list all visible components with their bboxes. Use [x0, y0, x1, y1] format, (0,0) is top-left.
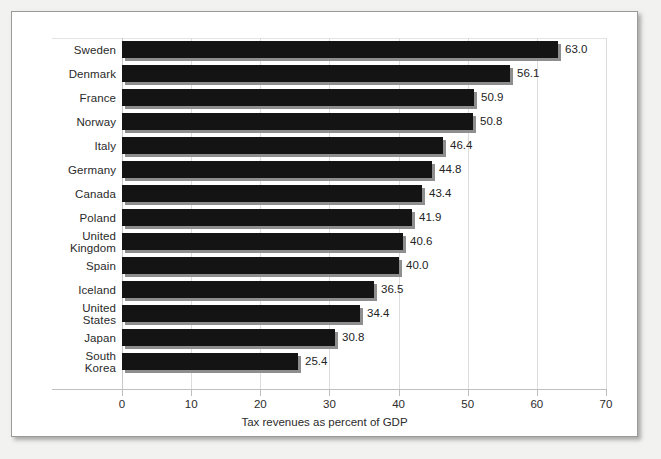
bar-value-label: 40.6 — [410, 235, 432, 247]
bar — [122, 233, 406, 253]
category-label: Norway — [12, 116, 116, 128]
category-label: UnitedKingdom — [12, 230, 116, 254]
bar-fill — [122, 329, 335, 346]
bar — [122, 113, 476, 133]
x-tick-label-0: 0 — [102, 398, 142, 410]
scanned-page-background: Sweden63.0Denmark56.1France50.9Norway50.… — [0, 0, 661, 459]
bar-fill — [122, 209, 412, 226]
bar-fill — [122, 233, 403, 250]
bar-fill — [122, 257, 399, 274]
x-tick-label-30: 30 — [309, 398, 349, 410]
category-label: SouthKorea — [12, 350, 116, 374]
bar-row: Sweden63.0 — [12, 40, 637, 64]
bar-row: Canada43.4 — [12, 184, 637, 208]
x-tick-label-40: 40 — [379, 398, 419, 410]
bar-value-label: 40.0 — [406, 259, 428, 271]
bar — [122, 41, 561, 61]
bar — [122, 89, 477, 109]
bar — [122, 209, 415, 229]
x-tick-label-20: 20 — [240, 398, 280, 410]
tick-mark-10 — [191, 389, 192, 396]
x-tick-label-10: 10 — [171, 398, 211, 410]
bar-row: SouthKorea25.4 — [12, 352, 637, 376]
category-label: Sweden — [12, 44, 116, 56]
bar-fill — [122, 161, 432, 178]
x-axis-title: Tax revenues as percent of GDP — [12, 416, 637, 428]
category-label: UnitedStates — [12, 302, 116, 326]
bar — [122, 305, 363, 325]
bar-fill — [122, 281, 374, 298]
bar — [122, 353, 301, 373]
bar-row: Iceland36.5 — [12, 280, 637, 304]
bar-fill — [122, 185, 422, 202]
bar-value-label: 50.8 — [480, 115, 502, 127]
bar — [122, 65, 513, 85]
bar-row: Spain40.0 — [12, 256, 637, 280]
bar-fill — [122, 41, 558, 58]
bar — [122, 329, 338, 349]
category-label: Denmark — [12, 68, 116, 80]
category-label: Germany — [12, 164, 116, 176]
bar-fill — [122, 113, 473, 130]
tick-mark-30 — [329, 389, 330, 396]
bar-row: Poland41.9 — [12, 208, 637, 232]
bar-row: UnitedStates34.4 — [12, 304, 637, 328]
bar-value-label: 30.8 — [342, 331, 364, 343]
bar-row: France50.9 — [12, 88, 637, 112]
bar-value-label: 46.4 — [450, 139, 472, 151]
category-label: Canada — [12, 188, 116, 200]
bar-value-label: 43.4 — [429, 187, 451, 199]
bar — [122, 137, 446, 157]
category-label: Spain — [12, 260, 116, 272]
bar-row: Italy46.4 — [12, 136, 637, 160]
category-label: Iceland — [12, 284, 116, 296]
bar-fill — [122, 305, 360, 322]
bar-value-label: 25.4 — [305, 355, 327, 367]
bar-value-label: 56.1 — [517, 67, 539, 79]
bar-value-label: 44.8 — [439, 163, 461, 175]
bar-value-label: 50.9 — [481, 91, 503, 103]
bar-row: Denmark56.1 — [12, 64, 637, 88]
bar-row: UnitedKingdom40.6 — [12, 232, 637, 256]
category-label: France — [12, 92, 116, 104]
bar-chart: Sweden63.0Denmark56.1France50.9Norway50.… — [12, 12, 637, 436]
tick-mark-0 — [122, 389, 123, 396]
category-label: Japan — [12, 332, 116, 344]
tick-mark-40 — [399, 389, 400, 396]
bar-row: Norway50.8 — [12, 112, 637, 136]
bar-fill — [122, 137, 443, 154]
bar-value-label: 41.9 — [419, 211, 441, 223]
bar-fill — [122, 65, 510, 82]
tick-mark-60 — [537, 389, 538, 396]
bar — [122, 257, 402, 277]
plot-area: Sweden63.0Denmark56.1France50.9Norway50.… — [12, 12, 637, 436]
bar — [122, 281, 377, 301]
bar-value-label: 34.4 — [367, 307, 389, 319]
chart-frame: Sweden63.0Denmark56.1France50.9Norway50.… — [11, 11, 638, 437]
bar-value-label: 63.0 — [565, 43, 587, 55]
tick-mark-50 — [468, 389, 469, 396]
x-tick-label-70: 70 — [586, 398, 626, 410]
tick-mark-70 — [606, 389, 607, 396]
category-label: Italy — [12, 140, 116, 152]
bar-fill — [122, 353, 298, 370]
bar — [122, 185, 425, 205]
bar-value-label: 36.5 — [381, 283, 403, 295]
x-tick-label-60: 60 — [517, 398, 557, 410]
x-tick-label-50: 50 — [448, 398, 488, 410]
tick-mark-20 — [260, 389, 261, 396]
bar — [122, 161, 435, 181]
bar-row: Germany44.8 — [12, 160, 637, 184]
category-label: Poland — [12, 212, 116, 224]
bar-fill — [122, 89, 474, 106]
bar-row: Japan30.8 — [12, 328, 637, 352]
